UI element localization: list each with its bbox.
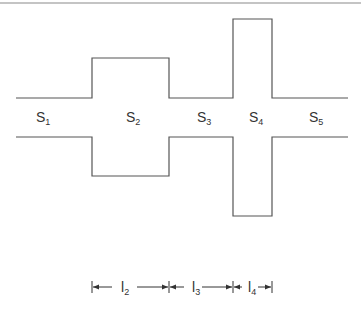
dimension-label-l3: l3: [192, 279, 200, 297]
dimension-label-l2: l2: [121, 279, 129, 297]
duct-diagram: S1 S2 S3 S4 S5 l2 l3 l4: [0, 0, 361, 316]
section-label-s4: S4: [249, 109, 263, 127]
arrow-icon: [234, 285, 240, 290]
section-label-s1: S1: [36, 109, 50, 127]
arrow-icon: [162, 285, 168, 290]
section-label-s2: S2: [126, 109, 140, 127]
dimension-lines: [92, 281, 272, 293]
duct-upper-wall: [16, 19, 348, 98]
duct-lower-wall: [16, 137, 348, 216]
dimension-label-l4: l4: [248, 279, 256, 297]
arrow-icon: [226, 285, 232, 290]
arrow-icon: [170, 285, 176, 290]
arrow-icon: [265, 285, 271, 290]
arrow-icon: [93, 285, 99, 290]
section-label-s3: S3: [197, 109, 211, 127]
section-label-s5: S5: [309, 109, 323, 127]
